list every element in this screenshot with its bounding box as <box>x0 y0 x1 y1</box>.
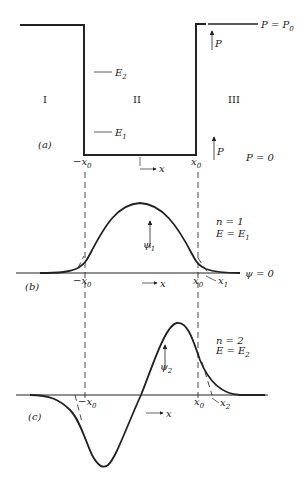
region-i-label: I <box>43 94 47 105</box>
region-iii-label: III <box>228 94 240 105</box>
panel-b: ψ1 n = 1 E = E1 ψ = 0 −x0 x0 x1 (b) x <box>16 203 275 292</box>
panel-c-label: (c) <box>28 411 42 422</box>
potential-well-diagram: P = P0 E2 E1 I II III (a) P P P = 0 −x0 … <box>0 0 301 485</box>
panel-a-label: (a) <box>38 139 52 150</box>
top-potential-label: P = P0 <box>260 19 294 33</box>
psi2-label: ψ2 <box>160 361 173 375</box>
p-arrow-label-bottom: P <box>216 146 224 157</box>
n1-label: n = 1 <box>216 216 244 227</box>
left-edge-label-b: −x0 <box>73 275 92 289</box>
right-edge-label-c: x0 <box>194 396 205 410</box>
x1-label: x1 <box>218 275 228 289</box>
left-edge-label: −x0 <box>73 156 92 170</box>
well-outline <box>20 24 206 155</box>
p-arrow-label-top: P <box>214 38 222 49</box>
panel-a: P = P0 E2 E1 I II III (a) P P P = 0 −x0 … <box>20 19 294 174</box>
e2-label: E = E2 <box>215 345 250 359</box>
bottom-potential-label: P = 0 <box>245 152 274 163</box>
turning-pointer-c <box>212 398 219 403</box>
e1-label: E = E1 <box>215 228 250 242</box>
x2-label: x2 <box>220 397 231 411</box>
right-edge-label-b: x0 <box>193 275 204 289</box>
psi-zero-label: ψ = 0 <box>245 268 275 279</box>
level-e1-label: E1 <box>114 127 127 141</box>
x-axis-label-b: x <box>160 278 166 289</box>
region-ii-label: II <box>133 94 141 105</box>
psi1-curve <box>40 203 240 273</box>
turning-pointer <box>206 276 216 281</box>
left-edge-label-c: −x0 <box>78 396 97 410</box>
panel-b-label: (b) <box>25 281 39 292</box>
x-axis-label-a: x <box>159 163 165 174</box>
panel-c: ψ2 n = 2 E = E2 −x0 x0 x2 (c) x <box>16 323 268 467</box>
x-axis-label-c: x <box>166 408 172 419</box>
level-e2-label: E2 <box>114 67 127 81</box>
right-edge-label: x0 <box>191 156 202 170</box>
psi1-label: ψ1 <box>143 239 155 253</box>
